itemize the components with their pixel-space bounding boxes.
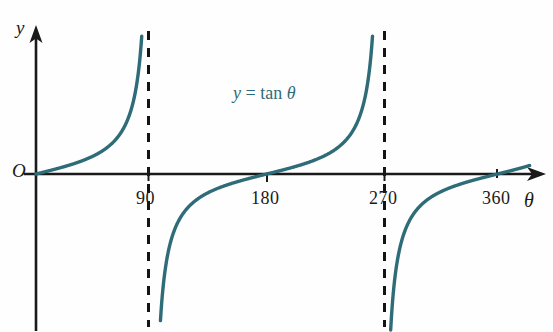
- curve-branch-1: [36, 36, 142, 174]
- equation-argument: θ: [287, 83, 296, 103]
- equation-annotation: y = tan θ: [233, 84, 296, 102]
- tick-label-180: 180: [251, 189, 280, 207]
- tangent-graph-figure: y O 90 180 270 360 θ y = tan θ: [0, 0, 553, 332]
- tick-label-90: 90: [136, 189, 155, 207]
- tick-label-270: 270: [369, 189, 398, 207]
- equation-lhs: y: [233, 83, 241, 103]
- equation-function: tan: [260, 83, 282, 103]
- origin-label: O: [12, 161, 26, 180]
- equation-equals-sign: =: [246, 83, 256, 103]
- y-axis-label: y: [16, 18, 24, 37]
- tick-label-360: 360: [482, 189, 511, 207]
- x-axis-label: θ: [524, 190, 534, 210]
- graph-canvas: [0, 0, 553, 332]
